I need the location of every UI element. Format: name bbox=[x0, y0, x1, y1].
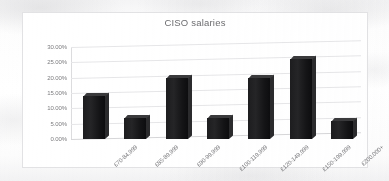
x-axis-category-label: £150-199,999 bbox=[321, 144, 352, 172]
y-axis-tick-label: 5.00% bbox=[50, 121, 67, 127]
bar-front-face bbox=[124, 118, 146, 139]
bar-front-face bbox=[83, 96, 105, 139]
bar bbox=[83, 96, 105, 139]
bar-front-face bbox=[290, 59, 312, 139]
bar-front-face bbox=[207, 118, 229, 139]
bar bbox=[331, 121, 353, 139]
bar-side-face bbox=[105, 92, 109, 139]
bar bbox=[166, 78, 188, 139]
y-axis-tick-label: 25.00% bbox=[47, 59, 67, 65]
y-axis-tick-label: 20.00% bbox=[47, 75, 67, 81]
bar-front-face bbox=[248, 78, 270, 139]
chart-title: CISO salaries bbox=[23, 17, 367, 28]
bar-side-face bbox=[188, 74, 192, 139]
y-axis-tick-label: 15.00% bbox=[47, 90, 67, 96]
y-axis-tick-label: 30.00% bbox=[47, 44, 67, 50]
chart-frame: CISO salaries 30.00%25.00%20.00%15.00%10… bbox=[22, 12, 368, 168]
x-axis-category-label: £90-99,999 bbox=[195, 144, 221, 168]
x-axis-category-label: £85-89,999 bbox=[154, 144, 180, 168]
bar-side-face bbox=[312, 56, 316, 139]
bar bbox=[124, 118, 146, 139]
x-axis-category-label: £200,000+ bbox=[360, 144, 385, 167]
plot-area: 30.00%25.00%20.00%15.00%10.00%5.00%0.00%… bbox=[71, 47, 361, 139]
bar-series: £70-84,999£85-89,999£90-99,999£100-119,9… bbox=[71, 47, 361, 139]
bar bbox=[290, 59, 312, 139]
bar-side-face bbox=[270, 74, 274, 139]
y-axis-tick-label: 0.00% bbox=[50, 136, 67, 142]
bar bbox=[207, 118, 229, 139]
x-axis-category-label: £100-119,999 bbox=[238, 144, 268, 172]
x-axis-category-label: £120-149,999 bbox=[280, 144, 311, 172]
x-axis-category-label: £70-84,999 bbox=[112, 144, 138, 168]
bar bbox=[248, 78, 270, 139]
chart-screenshot: CISO salaries 30.00%25.00%20.00%15.00%10… bbox=[0, 0, 389, 181]
bar-front-face bbox=[331, 121, 353, 139]
y-axis-tick-label: 10.00% bbox=[47, 105, 67, 111]
bar-front-face bbox=[166, 78, 188, 139]
